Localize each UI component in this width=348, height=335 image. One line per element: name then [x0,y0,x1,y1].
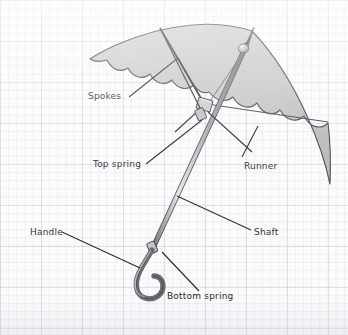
leader-line-bottom-spring [162,252,199,291]
tip-knob [238,44,248,53]
label-top-spring: Top spring [93,160,141,169]
handle-crook [136,250,163,299]
leader-line-shaft [177,196,251,230]
label-handle: Handle [30,228,63,237]
handle [135,250,163,299]
leader-line-runner [242,126,258,157]
stretcher-down-right [208,112,252,152]
umbrella-illustration [0,0,348,335]
leader-line-handle [62,232,140,268]
label-shaft: Shaft [254,228,278,237]
label-spokes: Spokes [88,92,121,101]
umbrella-diagram-page: Spokes Top spring Runner Shaft Handle Bo… [0,0,348,335]
label-bottom-spring: Bottom spring [167,292,234,301]
label-runner: Runner [244,162,277,171]
